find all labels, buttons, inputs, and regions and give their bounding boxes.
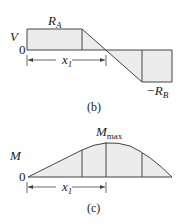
shear-diagram: V 0 RA x1 −RB (b) [10, 13, 172, 114]
arrow-left-icon [28, 58, 33, 62]
moment-x1-label: x1 [61, 179, 72, 196]
shear-x1-label: x1 [61, 52, 72, 69]
moment-diagram: M 0 Mmax x1 (c) [9, 124, 172, 215]
arrow-left-icon [28, 185, 33, 189]
shear-negative-rect [142, 50, 172, 82]
shear-zero-label: 0 [19, 42, 26, 57]
moment-zero-label: 0 [19, 169, 26, 184]
shear-caption: (b) [87, 100, 101, 114]
shear-positive-rect [27, 29, 82, 50]
moment-axis-label: M [9, 148, 22, 163]
moment-area [28, 143, 172, 177]
shear-ra-label: RA [47, 13, 62, 30]
moment-caption: (c) [87, 201, 100, 215]
beam-diagrams: V 0 RA x1 −RB (b) M 0 Mmax x1 (c) [0, 0, 186, 224]
arrow-right-icon [100, 185, 105, 189]
shear-rb-label: −RB [146, 83, 169, 100]
moment-max-label: Mmax [95, 124, 123, 141]
arrow-right-icon [100, 58, 105, 62]
